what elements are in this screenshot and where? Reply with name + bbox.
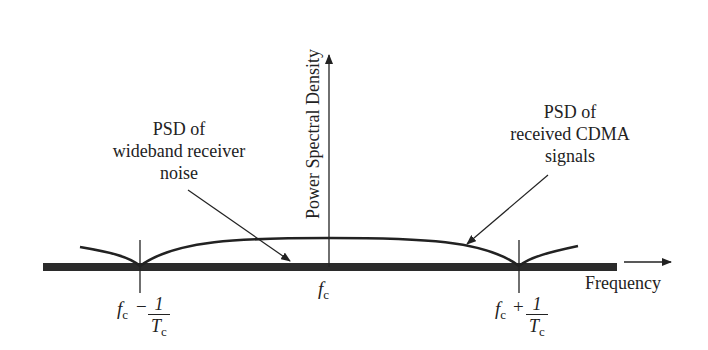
y-axis-label: Power Spectral Density xyxy=(303,49,324,219)
right-fraction: 1 Tc xyxy=(526,295,548,338)
x-axis-label: Frequency xyxy=(585,272,661,294)
left-edge-f-label: fc xyxy=(117,298,128,320)
cdma-callout-line-2: received CDMA xyxy=(510,123,629,145)
right-den-T: T xyxy=(529,316,539,336)
center-sub: c xyxy=(323,287,329,302)
left-sub: c xyxy=(122,307,128,322)
right-denominator: Tc xyxy=(529,316,545,338)
noise-callout-line-1: PSD of xyxy=(113,118,245,140)
noise-callout-line-3: noise xyxy=(113,162,245,184)
noise-callout-label: PSD of wideband receiver noise xyxy=(113,118,245,184)
right-plus-sign: + xyxy=(513,296,524,318)
left-den-T: T xyxy=(151,316,161,336)
left-denominator: Tc xyxy=(151,316,167,338)
psd-diagram: Power Spectral Density Frequency PSD of … xyxy=(0,0,708,350)
cdma-callout-arrow xyxy=(467,175,548,244)
left-den-sub: c xyxy=(161,324,167,339)
center-frequency-label: fc xyxy=(318,278,329,300)
diagram-canvas xyxy=(0,0,708,350)
right-edge-f-label: fc xyxy=(495,298,506,320)
left-minus-sign: − xyxy=(136,296,147,318)
noise-callout-line-2: wideband receiver xyxy=(113,140,245,162)
right-sub: c xyxy=(500,307,506,322)
right-numerator: 1 xyxy=(533,295,542,313)
left-fraction-bar xyxy=(148,314,170,315)
cdma-callout-label: PSD of received CDMA signals xyxy=(510,101,629,167)
left-fraction: 1 Tc xyxy=(148,295,170,338)
noise-band xyxy=(43,263,617,271)
left-numerator: 1 xyxy=(155,295,164,313)
right-fraction-bar xyxy=(526,314,548,315)
cdma-callout-line-1: PSD of xyxy=(510,101,629,123)
right-den-sub: c xyxy=(539,324,545,339)
cdma-callout-line-3: signals xyxy=(510,145,629,167)
noise-callout-arrow xyxy=(188,190,290,261)
